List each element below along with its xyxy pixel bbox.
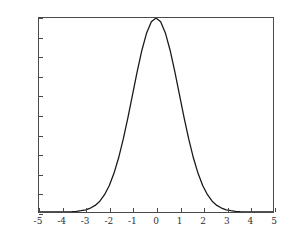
x-tick-label: 2: [200, 217, 206, 226]
x-tick-label: 5: [271, 217, 277, 226]
x-tick-label: 3: [224, 217, 230, 226]
x-tick-label: -4: [57, 217, 66, 226]
x-tick-label: -1: [128, 217, 137, 226]
x-tick-label: 4: [248, 217, 254, 226]
x-axis-tick-labels: -5-4-3-2-1012345: [0, 0, 294, 247]
x-tick-label: 0: [153, 217, 159, 226]
x-tick-label: -3: [81, 217, 90, 226]
x-tick-label: -2: [104, 217, 113, 226]
x-tick-label: 1: [177, 217, 183, 226]
chart-page: 00.10.20.30.40.50.60.70.80.91 -5-4-3-2-1…: [0, 0, 294, 247]
x-tick-label: -5: [34, 217, 43, 226]
